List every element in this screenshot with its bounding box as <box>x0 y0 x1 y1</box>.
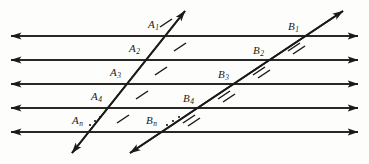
geometry-diagram: A1 A2 A3 A4 An B1 B2 B3 B4 Bn <box>0 0 369 164</box>
point-label-b3-sub: 3 <box>225 73 229 82</box>
tick-mark-a2 <box>155 67 167 75</box>
point-label-b2-letter: B <box>253 44 260 56</box>
point-label-a3: A3 <box>110 67 121 78</box>
point-label-an-letter: A <box>72 114 79 126</box>
tick-mark-a1 <box>174 43 186 51</box>
point-label-b1: B1 <box>288 21 299 32</box>
tick-mark-a3 <box>136 91 148 99</box>
tick-mark-a4 <box>117 115 129 123</box>
point-label-a3-letter: A <box>110 66 117 78</box>
point-label-b2-sub: 2 <box>260 49 264 58</box>
point-label-bn-letter: B <box>146 114 153 126</box>
point-label-b4: B4 <box>183 93 194 104</box>
diagram-canvas <box>0 0 369 164</box>
point-label-a2: A2 <box>129 43 140 54</box>
point-label-b4-sub: 4 <box>190 97 194 106</box>
point-label-a4-sub: 4 <box>98 95 102 104</box>
point-label-a4: A4 <box>91 91 102 102</box>
point-label-b3-letter: B <box>218 68 225 80</box>
point-label-bn: Bn <box>146 115 157 126</box>
tick-mark-a5 <box>160 19 172 27</box>
point-label-an: An <box>72 115 83 126</box>
point-label-a2-letter: A <box>129 42 136 54</box>
point-label-b1-letter: B <box>288 20 295 32</box>
point-label-a3-sub: 3 <box>117 71 121 80</box>
point-label-a2-sub: 2 <box>136 47 140 56</box>
point-label-a1-letter: A <box>148 18 155 30</box>
point-label-b4-letter: B <box>183 92 190 104</box>
point-label-b3: B3 <box>218 69 229 80</box>
point-label-b2: B2 <box>253 45 264 56</box>
point-label-b1-sub: 1 <box>295 25 299 34</box>
point-label-bn-sub: n <box>153 119 157 128</box>
point-label-a1: A1 <box>148 19 159 30</box>
point-label-a1-sub: 1 <box>155 23 159 32</box>
point-label-an-sub: n <box>79 119 83 128</box>
point-label-a4-letter: A <box>91 90 98 102</box>
